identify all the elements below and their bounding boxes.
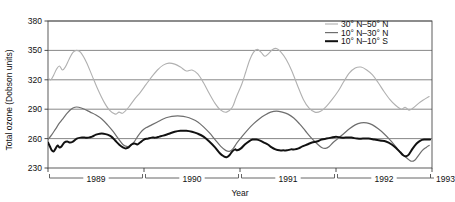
x-tick-label: 1990 — [183, 174, 202, 184]
x-tick-label: 1989 — [87, 174, 106, 184]
y-tick-label: 350 — [28, 45, 42, 55]
y-tick-label: 230 — [28, 163, 42, 173]
y-axis-ticks: 230260290320350380 — [28, 16, 48, 173]
y-axis-label: Total ozone (Dobson units) — [4, 49, 14, 150]
series-lines — [48, 48, 430, 161]
x-tick-label-end: 1993 — [436, 174, 455, 184]
legend-label-3: 10° N–10° S — [341, 36, 388, 46]
y-tick-label: 290 — [28, 104, 42, 114]
x-axis-label: Year — [231, 188, 248, 198]
legend: 30° N–50° N10° N–30° N10° N–10° S — [325, 19, 388, 46]
ozone-chart: 230260290320350380 19891990199119921993 … — [0, 0, 455, 202]
y-tick-label: 260 — [28, 134, 42, 144]
y-tick-label: 320 — [28, 75, 42, 85]
x-axis: 19891990199119921993 — [48, 168, 455, 184]
chart-canvas: 230260290320350380 19891990199119921993 … — [0, 0, 455, 202]
series-line-1 — [48, 48, 429, 114]
series-line-3 — [48, 131, 430, 158]
x-tick-label: 1991 — [279, 174, 298, 184]
y-tick-label: 380 — [28, 16, 42, 26]
x-tick-label: 1992 — [375, 174, 394, 184]
